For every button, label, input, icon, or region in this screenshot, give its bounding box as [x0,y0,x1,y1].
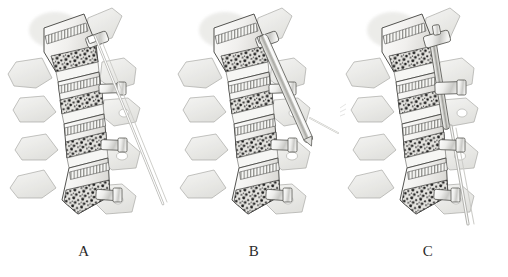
transverse-process-left-2 [183,96,226,122]
transverse-process-left-1 [346,58,390,88]
pedicle-screw-3 [271,138,297,152]
panel-b-scene [178,8,338,214]
panel-b-illustration [170,0,340,240]
panel-c-illustration [338,0,508,240]
pedicle-screw-3 [439,138,465,152]
foramen-3 [287,152,298,160]
panel-a-illustration [0,0,170,240]
panel-c-scene [340,8,478,224]
panel-a-scene [8,8,167,214]
panel-label-a: A [64,243,104,260]
foramen-2 [457,109,467,117]
panel-c [338,0,508,240]
pedicle-screw-3 [101,138,127,152]
set-screw-1 [432,24,441,35]
panel-a [0,0,170,240]
transverse-process-left-2 [351,96,394,122]
stray-pencil-marks [340,104,346,116]
transverse-process-left-4 [348,170,394,198]
pedicle-screw-2 [435,80,466,95]
driver-inner-wire-highlight [310,118,338,133]
transverse-process-left-3 [353,134,396,160]
transverse-process-left-4 [180,170,226,198]
pedicle-screw-2 [99,82,126,95]
figure-root: A B C [0,0,508,277]
transverse-process-left-2 [13,96,56,122]
panel-label-b: B [234,243,274,260]
foramen-3 [117,152,128,160]
transverse-process-left-4 [10,170,56,198]
caption-row: A B C [0,243,508,277]
transverse-process-left-1 [8,58,52,88]
panel-b [170,0,340,240]
panel-label-c: C [408,243,448,260]
transverse-process-left-3 [15,134,58,160]
transverse-process-left-1 [178,58,222,88]
transverse-process-left-3 [185,134,228,160]
